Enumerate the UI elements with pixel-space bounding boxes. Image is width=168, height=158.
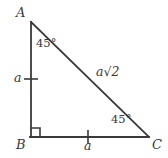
angle-label-at-a: 45°	[36, 38, 56, 50]
side-length-label-bc: a	[84, 140, 91, 153]
geometry-figure-right-triangle: A B C 45° 45° a a a√2	[0, 0, 168, 158]
right-angle-marker-icon	[31, 128, 40, 137]
vertex-label-b: B	[16, 138, 26, 151]
side-length-label-ac-hypotenuse: a√2	[96, 66, 119, 79]
side-length-label-ab: a	[14, 72, 21, 85]
triangle-drawing	[0, 0, 168, 158]
vertex-label-a: A	[16, 6, 25, 19]
vertex-label-c: C	[152, 138, 162, 151]
angle-label-at-c: 45°	[111, 114, 131, 126]
